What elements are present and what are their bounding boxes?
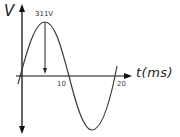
x-axis-arrow-icon (124, 73, 132, 79)
y-axis-label: V (4, 2, 14, 20)
tick-label-20: 20 (117, 80, 126, 88)
x-axis-label: t(ms) (136, 65, 173, 80)
y-axis-down-arrow-icon (19, 126, 25, 134)
peak-value-label: 311V (35, 10, 53, 18)
y-axis-up-arrow-icon (19, 4, 25, 12)
peak-marker (43, 22, 47, 74)
peak-marker-arrow-icon (43, 68, 47, 74)
tick-label-10: 10 (57, 80, 66, 88)
